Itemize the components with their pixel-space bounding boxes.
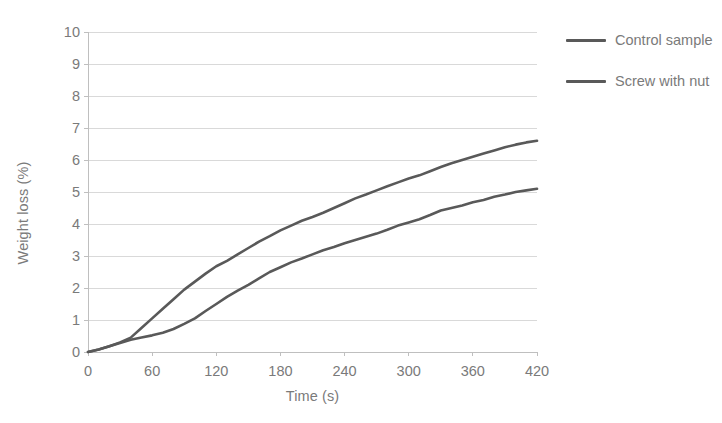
x-tick-label: 120 (204, 364, 228, 379)
x-tick-label: 180 (268, 364, 292, 379)
x-tick-label: 300 (397, 364, 421, 379)
chart-legend: Control sampleScrew with nut (566, 30, 722, 112)
legend-label: Control sample (615, 30, 713, 51)
x-axis-title: Time (s) (88, 388, 537, 404)
x-tick-label: 60 (144, 364, 160, 379)
legend-line-icon (566, 39, 606, 42)
chart-figure: Weight loss (%) 012345678910 06012018024… (0, 0, 722, 423)
x-tick-label: 360 (461, 364, 485, 379)
legend-label: Screw with nut (615, 71, 709, 92)
legend-line-icon (566, 80, 606, 83)
x-tick-label: 0 (84, 364, 92, 379)
legend-entry[interactable]: Screw with nut (566, 71, 722, 92)
x-tick-label: 420 (525, 364, 549, 379)
legend-entry[interactable]: Control sample (566, 30, 722, 51)
x-tick-label: 240 (332, 364, 356, 379)
